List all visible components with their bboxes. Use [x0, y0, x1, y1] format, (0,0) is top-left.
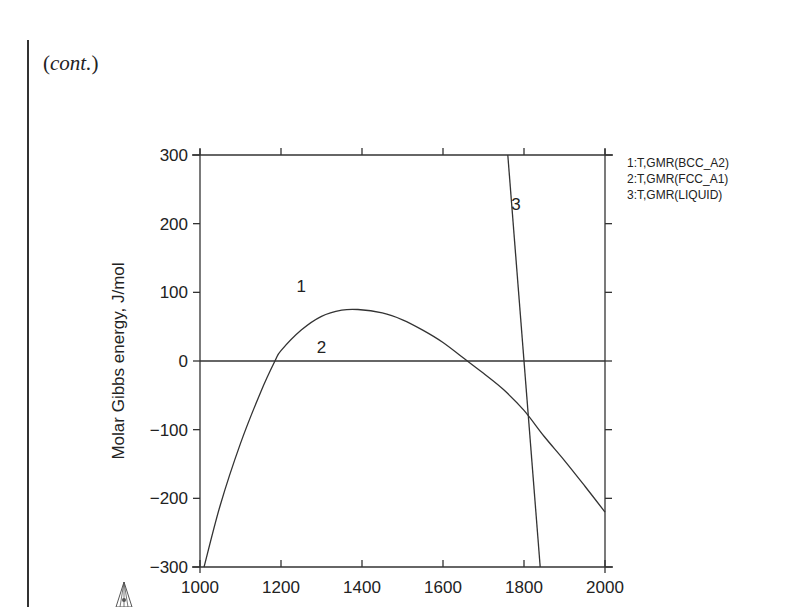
- axis-ticks: 100012001400160018002000−300−200−1000100…: [150, 146, 624, 597]
- y-tick-label: −200: [150, 489, 188, 508]
- legend-item: 1:T,GMR(BCC_A2): [627, 156, 729, 170]
- x-tick-label: 2000: [586, 578, 624, 597]
- x-tick-label: 1400: [343, 578, 381, 597]
- curve-labels: 123: [297, 195, 521, 357]
- legend: 1:T,GMR(BCC_A2)2:T,GMR(FCC_A1)3:T,GMR(LI…: [627, 156, 729, 202]
- y-tick-label: 200: [160, 215, 188, 234]
- y-tick-label: −300: [150, 558, 188, 577]
- curve-1: [204, 309, 605, 567]
- curves: [200, 155, 605, 567]
- y-tick-label: 100: [160, 283, 188, 302]
- y-axis-title: Molar Gibbs energy, J/mol: [109, 262, 128, 459]
- curve-label-2: 2: [317, 338, 326, 357]
- legend-item: 3:T,GMR(LIQUID): [627, 188, 722, 202]
- gibbs-energy-chart: 100012001400160018002000−300−200−1000100…: [0, 0, 787, 607]
- x-tick-label: 1200: [262, 578, 300, 597]
- x-tick-label: 1000: [181, 578, 219, 597]
- thermo-calc-logo-icon: [116, 582, 132, 607]
- y-tick-label: 300: [160, 146, 188, 165]
- curve-label-3: 3: [511, 195, 520, 214]
- x-tick-label: 1800: [505, 578, 543, 597]
- legend-item: 2:T,GMR(FCC_A1): [627, 172, 728, 186]
- curve-label-1: 1: [297, 277, 306, 296]
- x-tick-label: 1600: [424, 578, 462, 597]
- y-tick-label: 0: [179, 352, 188, 371]
- y-tick-label: −100: [150, 421, 188, 440]
